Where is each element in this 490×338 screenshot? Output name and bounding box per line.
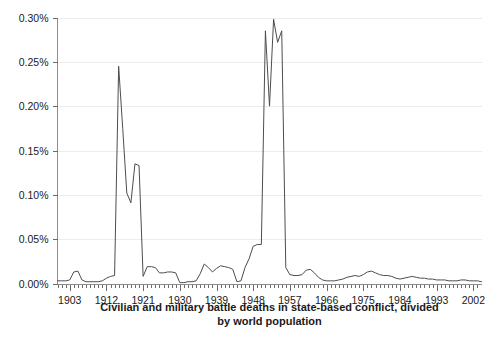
x-tick-label: 2002 [462, 294, 486, 306]
y-tick-label: 0.30% [19, 12, 49, 24]
chart-container: 0.00%0.05%0.10%0.15%0.20%0.25%0.30% 1903… [0, 0, 490, 338]
y-tick-label: 0.25% [19, 56, 49, 68]
x-tick-label: 1903 [58, 294, 82, 306]
y-tick-label: 0.15% [19, 145, 49, 157]
y-tick-label: 0.05% [19, 233, 49, 245]
battle-deaths-line-chart: 0.00%0.05%0.10%0.15%0.20%0.25%0.30% 1903… [0, 0, 490, 338]
y-tick-label: 0.10% [19, 189, 49, 201]
caption-line: by world population [217, 315, 322, 327]
caption-line: Civilian and military battle deaths in s… [100, 301, 439, 313]
y-tick-label: 0.00% [19, 278, 49, 290]
y-tick-label: 0.20% [19, 100, 49, 112]
